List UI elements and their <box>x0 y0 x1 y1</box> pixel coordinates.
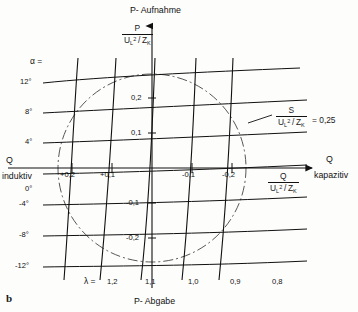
s-circle-value: = 0,25 <box>312 115 336 125</box>
alpha-curve-4 <box>43 132 307 143</box>
alpha-label-8: 8° <box>25 108 32 116</box>
y-tick-label-neg-0-1: -0,1 <box>126 199 139 207</box>
lambda-label-1-2: 1,2 <box>107 278 118 286</box>
lambda-curve-0-9 <box>182 58 196 280</box>
alpha-curve-8 <box>43 100 307 113</box>
lambda-label-1-1: 1,1 <box>145 278 156 286</box>
x-tick-label-neg-0-2: -0,2 <box>222 171 235 179</box>
p-axis-expression: P UL2 / ZK <box>122 24 153 46</box>
y-tick-label-0-2: 0,2 <box>131 94 142 102</box>
top-axis-label: P- Aufnahme <box>130 6 181 15</box>
alpha-curve-m8 <box>43 229 307 236</box>
figure-container: P- Aufnahme P UL2 / ZK P- Abgabe Q induk… <box>0 0 358 312</box>
p-expression-numerator: P <box>122 24 153 34</box>
lambda-label-0-8: 0,8 <box>272 278 283 286</box>
q-expression-numerator: Q <box>268 172 299 182</box>
right-axis-sublabel: kapazitiv <box>314 171 348 180</box>
left-axis-label: Q <box>6 156 13 165</box>
lambda-label-1-0: 1,0 <box>188 278 199 286</box>
lambda-label-0-9: 0,9 <box>230 278 241 286</box>
alpha-curve-m12 <box>43 261 307 267</box>
q-axis <box>8 163 312 173</box>
s-circle-leader <box>248 115 272 123</box>
alpha-label-0: 0° <box>25 185 32 193</box>
y-tick-label-0-1: 0,1 <box>131 129 142 137</box>
x-tick-label-neg-0-1: -0,1 <box>182 171 195 179</box>
alpha-curve-12 <box>43 68 300 83</box>
lambda-curve-1-2 <box>64 58 78 280</box>
lambda-curve-1-1 <box>100 58 116 280</box>
lambda-legend-symbol: λ = <box>84 277 96 286</box>
alpha-curve-m4 <box>43 197 307 205</box>
alpha-legend-symbol: α = <box>30 57 42 66</box>
y-tick-label-neg-0-2: -0,2 <box>126 234 139 242</box>
right-axis-label: Q <box>326 155 333 164</box>
x-tick-label-pos-0-2: +0,2 <box>60 171 75 179</box>
figure-letter: b <box>6 292 12 304</box>
p-expression-denominator: UL2 / ZK <box>122 36 153 46</box>
alpha-label-m4: -4° <box>19 200 29 208</box>
s-expression-denominator: UL2 / ZK <box>276 118 307 128</box>
alpha-label-m12: -12° <box>15 262 29 270</box>
q-axis-expression: Q UL2 / ZK <box>268 172 299 194</box>
alpha-label-m8: -8° <box>19 231 29 239</box>
alpha-label-12: 12° <box>20 78 31 86</box>
s-circle-expression: S UL2 / ZK <box>276 106 307 128</box>
bottom-axis-label: P- Abgabe <box>134 297 175 306</box>
s-expression-numerator: S <box>276 106 307 116</box>
nomogram-plot <box>0 0 358 312</box>
lambda-curve-1-0 <box>141 58 155 280</box>
x-tick-label-pos-0-1: +0,1 <box>100 171 115 179</box>
left-axis-sublabel: induktiv <box>2 172 32 181</box>
alpha-label-4: 4° <box>25 138 32 146</box>
q-expression-denominator: UL2 / ZK <box>268 184 299 194</box>
